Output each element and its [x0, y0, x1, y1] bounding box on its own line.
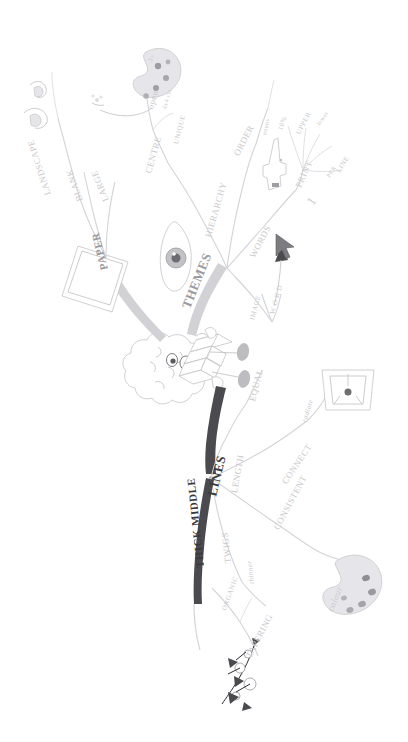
sketch-flower-icon: [91, 94, 104, 105]
paper-sheet-icon: [62, 246, 128, 312]
pointing-hand-icon: [263, 138, 286, 190]
mindmap-vector-layer: .br{fill:none;stroke:#d4d4d8;stroke-widt…: [0, 0, 408, 742]
cup-icon: [322, 370, 374, 410]
paint-palette-icon-bottom: [323, 555, 382, 614]
brain-character-icon: [123, 328, 252, 404]
eye-icon: [160, 222, 191, 291]
flower-branch-icon: [222, 638, 260, 711]
mindmap-canvas: .br{fill:none;stroke:#d4d4d8;stroke-widt…: [0, 0, 408, 742]
branch-themes: [187, 263, 227, 336]
paint-palette-icon-top: [133, 48, 181, 98]
decorative-marks: [24, 81, 47, 128]
